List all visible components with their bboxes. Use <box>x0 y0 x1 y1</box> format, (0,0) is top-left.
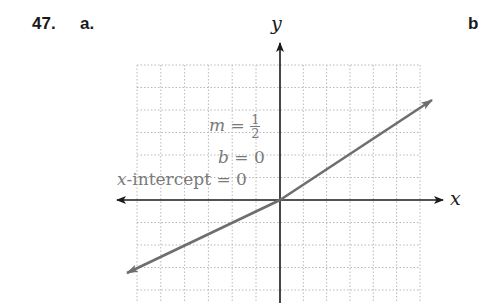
slope-eq: = <box>231 115 245 135</box>
slope-var: m <box>209 115 225 135</box>
x-intercept-annotation: x-intercept = 0 <box>117 169 247 189</box>
slope-numerator: 1 <box>250 113 260 127</box>
intercept-eq: = 0 <box>234 147 264 167</box>
slope-annotation: m = 1 2 <box>209 113 260 140</box>
intercept-annotation: b = 0 <box>218 147 265 167</box>
slope-fraction: 1 2 <box>250 113 260 140</box>
x-intercept-text: -intercept = 0 <box>127 169 247 189</box>
plotted-line-neg <box>127 200 280 273</box>
x-intercept-var: x <box>117 169 127 189</box>
intercept-var: b <box>218 147 229 167</box>
y-axis-label: y <box>271 12 282 34</box>
x-axis-label: x <box>450 187 461 209</box>
slope-denominator: 2 <box>250 127 260 140</box>
